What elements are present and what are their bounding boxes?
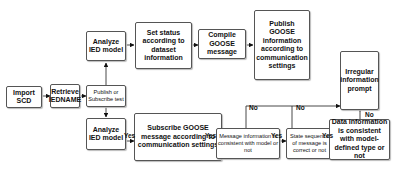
node-label: Import SCD xyxy=(8,89,40,106)
node-label: Publish or Subscribe test xyxy=(88,89,124,103)
edge-label-yes: Yes xyxy=(124,132,135,139)
node-set-status: Set status according to dataset informat… xyxy=(135,22,192,69)
node-label: Analyze IED model xyxy=(88,38,124,55)
node-publish-goose: Publish GOOSE information according to c… xyxy=(254,10,310,80)
node-compile-goose: Compile GOOSE message xyxy=(198,29,246,59)
node-label: Message information is consistent with m… xyxy=(218,133,278,154)
node-data-consistent: Data information is consistent with mode… xyxy=(329,119,390,160)
node-analyze-ied-model-top: Analyze IED model xyxy=(86,31,126,61)
node-label: Compile GOOSE message xyxy=(200,31,244,57)
node-retrieve-iedname: Retrieve IEDNAME xyxy=(50,84,80,108)
node-irregular-information-prompt: Irregular information prompt xyxy=(340,51,379,110)
node-import-scd: Import SCD xyxy=(6,86,42,108)
node-publish-or-subscribe-test: Publish or Subscribe test xyxy=(86,85,126,107)
node-label: Irregular information prompt xyxy=(340,68,378,94)
node-label: Publish GOOSE information according to c… xyxy=(256,20,308,71)
edge-label-yes: Yes xyxy=(322,132,333,139)
node-label: Data information is consistent with mode… xyxy=(331,118,388,161)
node-label: Retrieve IEDNAME xyxy=(49,88,81,105)
node-analyze-ied-model-bottom: Analyze IED model xyxy=(86,118,126,150)
edge-label-no: No xyxy=(296,104,305,111)
node-label: Set status according to dataset informat… xyxy=(137,29,190,63)
edge-label-yes: Yes xyxy=(205,132,216,139)
edge-label-no: No xyxy=(249,104,258,111)
edge-label-no: No xyxy=(365,111,374,118)
node-label: Analyze IED model xyxy=(88,126,124,143)
edge-label-yes: Yes xyxy=(271,132,282,139)
